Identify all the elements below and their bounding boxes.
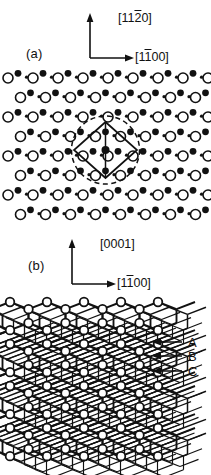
panel-b-layer-arrows (150, 336, 184, 380)
medium-filled-circle-atom (152, 167, 159, 174)
large-open-circle-atom (78, 73, 88, 83)
axis-text-pre: [1 (117, 276, 127, 290)
medium-filled-circle-atom (27, 128, 34, 135)
large-open-circle-atom (80, 452, 89, 461)
medium-filled-circle-atom (202, 167, 209, 174)
large-open-circle-atom (128, 190, 138, 200)
medium-filled-circle-atom (127, 206, 134, 213)
large-open-circle-atom (24, 431, 33, 440)
large-open-circle-atom (141, 132, 151, 142)
medium-filled-circle-atom (152, 89, 159, 96)
atomic-bond (177, 302, 196, 309)
medium-filled-circle-atom (165, 109, 172, 116)
large-open-circle-atom (154, 424, 163, 433)
large-open-circle-atom (98, 431, 107, 440)
large-open-circle-atom (117, 368, 126, 377)
large-open-circle-atom (117, 410, 126, 419)
large-open-circle-atom (61, 389, 70, 398)
large-open-circle-atom (53, 112, 63, 122)
medium-filled-circle-atom (40, 70, 47, 77)
large-open-circle-atom (178, 190, 188, 200)
large-open-circle-atom (43, 368, 52, 377)
large-open-circle-atom (154, 298, 163, 307)
large-open-circle-atom (135, 319, 144, 328)
medium-filled-circle-atom (27, 206, 34, 213)
medium-filled-circle-atom (140, 109, 147, 116)
medium-filled-circle-atom (77, 89, 84, 96)
large-open-circle-atom (43, 298, 52, 307)
large-open-circle-atom (24, 389, 33, 398)
large-open-circle-atom (166, 93, 176, 103)
large-open-circle-atom (178, 73, 188, 83)
large-open-circle-atom (117, 326, 126, 335)
medium-filled-circle-atom (77, 206, 84, 213)
large-open-circle-atom (61, 403, 70, 412)
large-open-circle-atom (153, 151, 163, 161)
axis-text-pre: [0001] (100, 237, 135, 251)
medium-filled-circle-atom (102, 89, 109, 96)
large-open-circle-atom (24, 319, 33, 328)
large-open-circle-atom (103, 73, 113, 83)
large-open-circle-atom (135, 445, 144, 454)
large-open-circle-atom (117, 452, 126, 461)
medium-filled-circle-atom (90, 187, 97, 194)
large-open-circle-atom (166, 210, 176, 220)
large-open-circle-atom (24, 445, 33, 454)
large-open-circle-atom (154, 452, 163, 461)
medium-filled-circle-atom (190, 187, 197, 194)
large-open-circle-atom (128, 73, 138, 83)
medium-filled-circle-atom (190, 70, 197, 77)
large-open-circle-atom (66, 210, 76, 220)
medium-filled-circle-atom (65, 148, 72, 155)
panel-a-unit-cell (72, 116, 140, 184)
medium-filled-circle-atom (52, 89, 59, 96)
medium-filled-circle-atom (140, 70, 147, 77)
large-open-circle-atom (98, 319, 107, 328)
atomic-bond (54, 470, 73, 475)
medium-filled-circle-atom (127, 167, 134, 174)
large-open-circle-atom (154, 410, 163, 419)
large-open-circle-atom (24, 305, 33, 314)
atomic-bond (128, 470, 147, 475)
large-open-circle-atom (191, 171, 201, 181)
large-open-circle-atom (28, 151, 38, 161)
layer-label-a: A (188, 335, 197, 350)
atomic-bond (0, 307, 3, 314)
large-open-circle-atom (135, 361, 144, 370)
large-open-circle-atom (203, 151, 211, 161)
large-open-circle-atom (80, 326, 89, 335)
medium-filled-circle-atom (65, 109, 72, 116)
large-open-circle-atom (16, 93, 26, 103)
medium-filled-circle-atom (15, 148, 22, 155)
large-open-circle-atom (61, 361, 70, 370)
atomic-bond (114, 307, 133, 314)
large-open-circle-atom (80, 410, 89, 419)
medium-filled-circle-atom (177, 89, 184, 96)
atomic-bond (77, 307, 96, 314)
large-open-circle-atom (98, 361, 107, 370)
large-open-circle-atom (154, 382, 163, 391)
large-open-circle-atom (135, 389, 144, 398)
large-open-circle-atom (80, 298, 89, 307)
axis-text-post: 0] (141, 11, 151, 25)
large-open-circle-atom (16, 210, 26, 220)
large-open-circle-atom (191, 132, 201, 142)
large-open-circle-atom (3, 151, 13, 161)
large-open-circle-atom (135, 431, 144, 440)
large-open-circle-atom (61, 431, 70, 440)
large-open-circle-atom (91, 210, 101, 220)
medium-filled-circle-atom (177, 167, 184, 174)
large-open-circle-atom (135, 305, 144, 314)
atomic-bond (40, 307, 59, 314)
large-open-circle-atom (154, 326, 163, 335)
large-open-circle-atom (91, 93, 101, 103)
medium-filled-circle-atom (27, 167, 34, 174)
large-open-circle-atom (80, 340, 89, 349)
large-open-circle-atom (166, 171, 176, 181)
atomic-bond (3, 307, 22, 314)
axis-text-pre: [11 (118, 11, 134, 25)
large-open-circle-atom (6, 382, 15, 391)
medium-filled-circle-atom (152, 128, 159, 135)
medium-filled-circle-atom (127, 89, 134, 96)
large-open-circle-atom (103, 190, 113, 200)
